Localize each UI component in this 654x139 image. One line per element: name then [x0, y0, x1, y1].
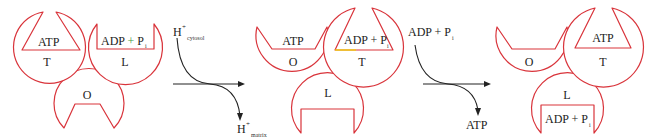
substrate-flow-curve	[415, 45, 478, 110]
superscript: +	[182, 23, 186, 31]
transition-input-label: ADP + P	[408, 25, 451, 39]
subunit-state-label: T	[43, 55, 51, 69]
subunit-tight-state-2	[324, 8, 404, 87]
subunit-state-label: O	[289, 55, 298, 69]
bound-ligand-label: ADP + P	[545, 112, 588, 126]
bound-ligand-label: ATP	[38, 35, 60, 49]
subunit-state-label: L	[121, 55, 128, 69]
subscript: matrix	[251, 132, 267, 138]
transition-input-label: H	[173, 25, 182, 39]
bound-ligand-subscript: i	[589, 122, 591, 128]
transition-output-label: ATP	[466, 118, 488, 132]
subscript: cytosol	[187, 35, 205, 41]
arrowhead-icon	[484, 81, 491, 87]
state-3: O ATP T L ADP + P i	[496, 8, 644, 133]
subunit-tight-state-3	[564, 8, 644, 87]
bound-ligand-label: ATP	[282, 34, 304, 48]
bound-ligand-subscript: i	[387, 43, 389, 49]
atp-synthase-binding-change-diagram: ATP T ADP + P i L O H + cytosol H + matr…	[0, 0, 654, 139]
subunit-state-label: L	[324, 86, 331, 100]
bound-ligand-label: ATP	[592, 31, 614, 45]
subunit-state-label: O	[525, 55, 534, 69]
state-1: ATP T ADP + P i L O	[14, 12, 163, 128]
bound-ligand-label: ADP + P	[101, 34, 144, 48]
arrowhead-icon	[238, 81, 245, 87]
subunit-state-label: O	[83, 88, 92, 102]
subunit-state-label: L	[563, 88, 570, 102]
arrowhead-icon	[237, 113, 243, 121]
bound-ligand-subscript: i	[145, 43, 147, 49]
state-2: ATP O ADP + P i T L	[256, 8, 403, 133]
subscript: i	[452, 35, 454, 41]
transition-output-label: H	[237, 122, 246, 136]
proton-flow-curve	[177, 38, 240, 116]
arrowhead-icon	[475, 108, 481, 116]
transition-2: ADP + P i ATP	[408, 25, 491, 132]
subunit-state-label: T	[358, 55, 366, 69]
superscript: +	[246, 120, 250, 128]
transition-1: H + cytosol H + matrix	[173, 23, 267, 138]
bound-ligand-label: ADP + P	[344, 33, 387, 47]
subunit-state-label: T	[599, 55, 607, 69]
